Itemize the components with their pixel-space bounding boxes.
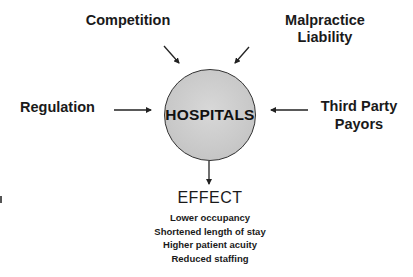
effect-item: Shortened length of stay	[130, 225, 290, 239]
effect-item: Higher patient acuity	[130, 238, 290, 252]
malpractice-arrow	[235, 47, 249, 63]
effect-title: EFFECT	[150, 189, 270, 207]
edge-mark	[0, 196, 2, 203]
competition-arrow	[164, 46, 179, 63]
effect-list: Lower occupancy Shortened length of stay…	[130, 211, 290, 265]
effect-item: Reduced staffing	[130, 252, 290, 266]
effect-item: Lower occupancy	[130, 211, 290, 225]
